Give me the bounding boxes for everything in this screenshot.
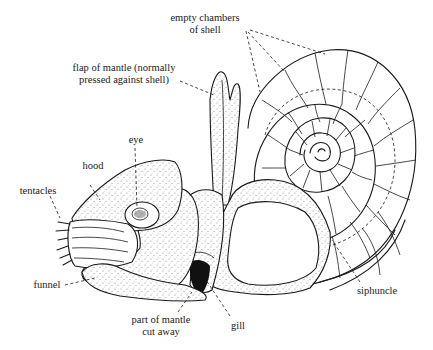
label-flap-of-mantle: flap of mantle (normally pressed against… [62,62,186,86]
nautilus-illustration [0,0,433,350]
label-empty-chambers-line1: empty chambers [160,12,250,24]
label-tentacles: tentacles [14,185,62,197]
label-flap-line1: flap of mantle (normally [62,62,186,74]
label-part-mantle-line2: cut away [124,326,198,338]
label-funnel: funnel [30,279,64,291]
mantle-flap [210,72,240,205]
nautilus-diagram: empty chambers of shell flap of mantle (… [0,0,433,350]
label-part-of-mantle: part of mantle cut away [124,314,198,338]
label-hood: hood [76,160,110,172]
label-part-mantle-line1: part of mantle [124,314,198,326]
tentacles [56,220,138,268]
label-siphuncle: siphuncle [352,285,402,297]
label-flap-line2: pressed against shell) [62,74,186,86]
label-eye: eye [124,134,148,146]
label-empty-chambers: empty chambers of shell [160,12,250,36]
eye [125,202,159,228]
label-empty-chambers-line2: of shell [160,24,250,36]
label-gill: gill [228,320,248,332]
